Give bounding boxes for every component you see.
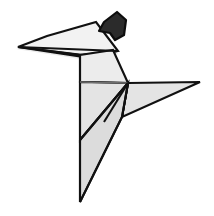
origami-figure-canvas (0, 0, 214, 216)
crease-wing-base (80, 82, 128, 83)
origami-bird-illustration (0, 0, 214, 216)
